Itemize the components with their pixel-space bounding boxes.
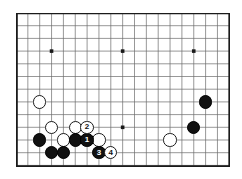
white-stone[interactable] bbox=[33, 95, 46, 108]
move-number-label: 1 bbox=[81, 134, 92, 145]
star-point-center bbox=[121, 49, 125, 53]
black-stone[interactable] bbox=[199, 95, 212, 108]
black-stone[interactable] bbox=[33, 133, 46, 146]
board-grid bbox=[16, 13, 230, 167]
move-number-label: 4 bbox=[105, 147, 116, 158]
white-stone[interactable] bbox=[92, 133, 105, 146]
move-stone-4[interactable]: 4 bbox=[104, 146, 117, 159]
star-point-right bbox=[192, 49, 196, 53]
go-board-diagram: 1234 bbox=[0, 0, 242, 179]
go-board[interactable] bbox=[16, 13, 230, 167]
star-point-bottom-center bbox=[121, 126, 125, 130]
move-stone-1[interactable]: 1 bbox=[80, 133, 93, 146]
white-stone[interactable] bbox=[45, 121, 58, 134]
move-number-label: 2 bbox=[81, 122, 92, 133]
star-point-left bbox=[50, 49, 54, 53]
white-stone[interactable] bbox=[163, 133, 176, 146]
move-stone-2[interactable]: 2 bbox=[80, 121, 93, 134]
move-number-label: 3 bbox=[93, 147, 104, 158]
